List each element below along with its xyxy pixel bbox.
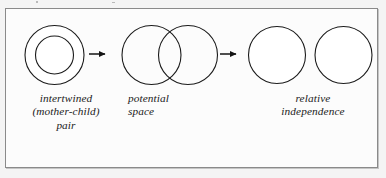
stage-label-potential-space: potential space (128, 92, 220, 119)
diagram-frame (5, 8, 378, 168)
stage-label-relative-independence: relative independence (250, 92, 376, 119)
scan-artifact-speck (36, 1, 38, 3)
figure-root: intertwined (mother-child) pair potentia… (0, 0, 386, 178)
stage-label-intertwined: intertwined (mother-child) pair (14, 92, 118, 132)
scan-artifact-speck (112, 2, 115, 3)
